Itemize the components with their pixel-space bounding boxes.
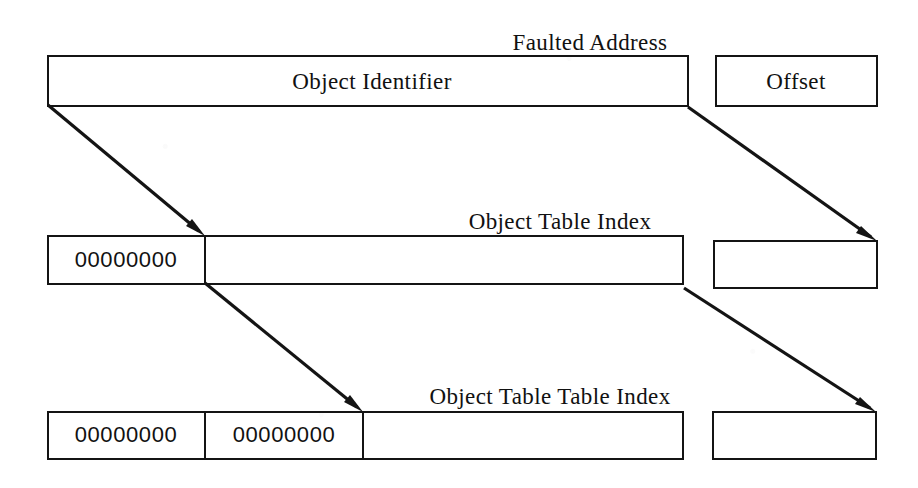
arrow-right-1 <box>688 107 877 241</box>
faulted-address-label: Faulted Address <box>513 31 668 54</box>
arrow-left-1 <box>48 105 205 236</box>
object-table-table-index-label: Object Table Table Index <box>429 385 670 408</box>
arrow-left-2 <box>205 283 363 412</box>
object-table-index-label: Object Table Index <box>469 210 652 233</box>
object-table-index-right-box <box>714 241 877 288</box>
arrow-right-2 <box>684 288 876 412</box>
object-table-table-index-right-box <box>713 412 876 459</box>
object-table-table-index-cell-2-value: 00000000 <box>233 424 336 446</box>
object-identifier-label: Object Identifier <box>292 70 451 93</box>
diagram-canvas: Faulted Address Object Identifier Offset… <box>0 0 918 488</box>
object-table-table-index-cell-1-value: 00000000 <box>75 424 178 446</box>
offset-label: Offset <box>766 70 825 93</box>
object-table-index-cell-1-value: 00000000 <box>75 249 178 271</box>
